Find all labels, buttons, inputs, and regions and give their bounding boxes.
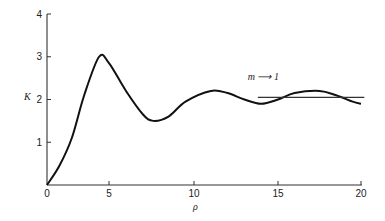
x-tick-label: 5 xyxy=(106,188,112,199)
y-tick-label: 4 xyxy=(36,9,42,20)
y-tick-label: 3 xyxy=(36,51,42,62)
x-tick-label: 10 xyxy=(188,188,200,199)
y-tick-label: 2 xyxy=(36,94,42,105)
k-curve xyxy=(47,55,361,185)
x-tick-label: 15 xyxy=(272,188,284,199)
x-tick-label: 0 xyxy=(44,188,50,199)
annotation-m-to-1: m ⟶ 1 xyxy=(248,71,279,82)
x-axis-label: ρ xyxy=(192,201,198,212)
y-tick-label: 1 xyxy=(36,137,42,148)
x-ticks: 05101520 xyxy=(44,181,367,199)
x-tick-label: 20 xyxy=(355,188,367,199)
y-axis-label: K xyxy=(23,91,32,102)
y-ticks: 1234 xyxy=(36,9,51,148)
chart: 05101520 1234 K ρ m ⟶ 1 xyxy=(0,0,385,221)
